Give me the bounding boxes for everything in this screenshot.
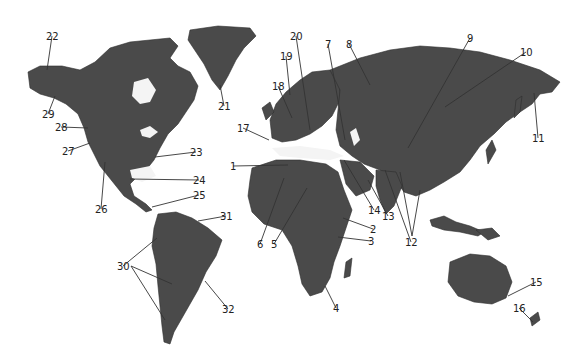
- australia-landmass: [448, 254, 512, 304]
- indonesia-islands: [430, 216, 484, 236]
- map-label-30: 30: [117, 261, 130, 272]
- map-label-11: 11: [532, 133, 545, 144]
- map-label-15: 15: [530, 277, 543, 288]
- map-label-8: 8: [346, 39, 352, 50]
- map-label-32: 32: [222, 304, 235, 315]
- new-zealand: [530, 312, 540, 326]
- north-america-landmass: [28, 38, 198, 212]
- japan: [486, 140, 496, 164]
- map-label-26: 26: [95, 204, 108, 215]
- leader-line-11: [534, 93, 538, 138]
- map-label-1: 1: [230, 161, 236, 172]
- map-label-12: 12: [405, 237, 418, 248]
- map-label-9: 9: [467, 33, 473, 44]
- map-label-6: 6: [257, 239, 263, 250]
- map-label-14: 14: [368, 205, 381, 216]
- map-label-4: 4: [333, 303, 339, 314]
- south-america-landmass: [152, 212, 222, 344]
- map-label-24: 24: [193, 175, 206, 186]
- map-label-19: 19: [280, 51, 293, 62]
- map-label-13: 13: [382, 211, 395, 222]
- map-label-3: 3: [368, 236, 374, 247]
- map-label-28: 28: [55, 122, 68, 133]
- map-label-10: 10: [520, 47, 533, 58]
- madagascar: [344, 258, 352, 278]
- map-label-7: 7: [325, 39, 331, 50]
- leader-line-12-extra: [412, 190, 420, 236]
- world-relief-map: 1234567891011121314151617181920212223242…: [0, 0, 581, 363]
- map-label-27: 27: [62, 146, 75, 157]
- map-label-25: 25: [193, 190, 206, 201]
- leader-line-3: [338, 237, 371, 241]
- map-label-21: 21: [218, 101, 231, 112]
- map-label-22: 22: [46, 31, 59, 42]
- greenland-landmass: [188, 26, 256, 90]
- mediterranean-sea: [272, 146, 344, 160]
- map-label-5: 5: [271, 239, 277, 250]
- map-label-29: 29: [42, 109, 55, 120]
- map-label-23: 23: [190, 147, 203, 158]
- leader-line-25: [152, 195, 199, 207]
- map-label-17: 17: [237, 123, 250, 134]
- map-label-31: 31: [220, 211, 233, 222]
- map-label-18: 18: [272, 81, 285, 92]
- africa-landmass: [248, 160, 352, 296]
- map-label-20: 20: [290, 31, 303, 42]
- map-label-16: 16: [513, 303, 526, 314]
- map-label-2: 2: [370, 224, 376, 235]
